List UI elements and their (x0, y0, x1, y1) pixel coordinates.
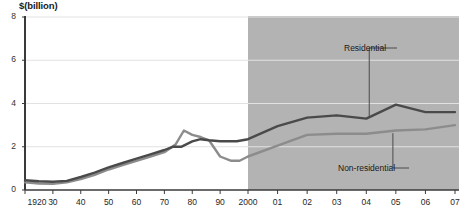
x-tick-label: 50 (104, 197, 113, 207)
x-tick-label: 1920 (28, 197, 47, 207)
y-tick-label: 4 (2, 98, 16, 108)
x-tick-label: 04 (362, 197, 371, 207)
x-tick-label: 90 (215, 197, 224, 207)
series-label-residential: Residential (344, 43, 386, 53)
x-tick-label: 70 (160, 197, 169, 207)
x-tick-label: 2000 (239, 197, 258, 207)
x-tick-label: 60 (132, 197, 141, 207)
x-tick-label: 06 (421, 197, 430, 207)
x-tick-label: 30 (48, 197, 57, 207)
series-label-non-residential: Non-residential (338, 163, 395, 173)
y-tick-label: 8 (2, 11, 16, 21)
x-tick-label: 03 (332, 197, 341, 207)
x-tick-label: 07 (450, 197, 459, 207)
x-tick-label: 40 (76, 197, 85, 207)
x-tick-label: 80 (188, 197, 197, 207)
x-tick-label: 05 (391, 197, 400, 207)
x-tick-label: 01 (273, 197, 282, 207)
y-tick-label: 6 (2, 54, 16, 64)
x-tick-label: 02 (302, 197, 311, 207)
y-tick-label: 2 (2, 141, 16, 151)
y-tick-label: 0 (2, 184, 16, 194)
